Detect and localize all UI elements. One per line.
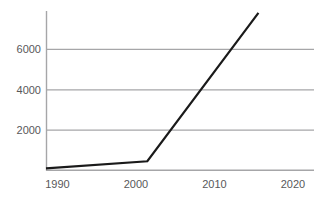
x-tick-label-2000: 2000: [124, 178, 148, 190]
y-tick-labels: 2000 4000 6000: [17, 43, 41, 136]
x-tick-label-1990: 1990: [45, 178, 69, 190]
line-chart: 2000 4000 6000 1990 2000 2010 2020: [0, 0, 325, 200]
x-tick-labels: 1990 2000 2010 2020: [45, 178, 305, 190]
y-tick-label-4000: 4000: [17, 84, 41, 96]
y-tick-label-6000: 6000: [17, 43, 41, 55]
x-tick-label-2020: 2020: [281, 178, 305, 190]
data-line-series-1: [46, 13, 258, 168]
chart-canvas: 2000 4000 6000 1990 2000 2010 2020: [0, 0, 325, 200]
y-tick-label-2000: 2000: [17, 124, 41, 136]
x-tick-label-2010: 2010: [202, 178, 226, 190]
